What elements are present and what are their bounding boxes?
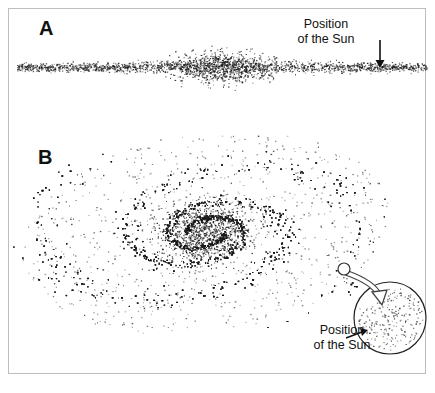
annotation-line-1: Position	[298, 323, 386, 338]
sun-position-annotation-b: Position of the Sun	[298, 323, 386, 353]
edge-on-galaxy	[17, 46, 428, 91]
annotation-line-1: Position	[282, 17, 370, 32]
face-on-spiral-galaxy	[13, 136, 388, 334]
panel-label-b: B	[38, 147, 52, 167]
sun-arrow-icon	[376, 40, 385, 68]
sun-position-annotation-a: Position of the Sun	[282, 17, 370, 47]
annotation-line-2: of the Sun	[298, 338, 386, 353]
panel-label-a: A	[39, 18, 53, 38]
annotation-line-2: of the Sun	[282, 32, 370, 47]
figure-caption-cropped	[150, 381, 435, 393]
sun-marker-icon	[338, 263, 350, 275]
